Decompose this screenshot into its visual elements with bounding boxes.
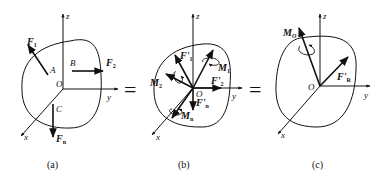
- equals-sign-2: =: [249, 77, 261, 102]
- mo-label: MO: [282, 27, 297, 39]
- y-label: y: [363, 90, 368, 100]
- x-label: x: [155, 132, 160, 142]
- fn-label: Fn: [55, 133, 67, 145]
- m2-label: M2: [149, 77, 162, 89]
- origin-label: O: [56, 79, 63, 89]
- point-c-label: C: [56, 104, 63, 114]
- force-f1: [28, 45, 48, 75]
- m1-label: M1: [217, 62, 230, 74]
- y-label: y: [231, 91, 236, 101]
- f2-prime-label: F'2: [210, 75, 223, 87]
- caption-b: (b): [178, 159, 190, 171]
- point-b-label: B: [70, 58, 76, 68]
- caption-a: (a): [47, 159, 58, 171]
- force-system-diagram: z y x O A B C F1 F2 Fn (a) = z y x O F'1…: [0, 0, 389, 176]
- x-label: x: [280, 130, 285, 140]
- mn-label: Mn: [180, 110, 194, 122]
- z-label: z: [195, 11, 200, 21]
- f2-label: F2: [105, 57, 116, 69]
- fn-prime-label: F'n: [195, 97, 209, 109]
- caption-c: (c): [312, 159, 323, 171]
- panel-c: z y x O MO F'R (c): [276, 11, 370, 171]
- y-label: y: [106, 92, 111, 102]
- point-a-label: A: [49, 65, 56, 75]
- origin-label: O: [308, 82, 315, 92]
- x-label: x: [23, 132, 28, 142]
- moment-m1: [193, 50, 213, 88]
- panel-b: z y x O F'1 F'2 F'n M1 M2 Mn (b): [149, 11, 242, 171]
- panel-a: z y x O A B C F1 F2 Fn (a): [21, 11, 118, 171]
- f1-prime-label: F'1: [179, 50, 192, 62]
- z-label: z: [322, 11, 327, 21]
- z-label: z: [65, 11, 70, 21]
- equals-sign-1: =: [124, 77, 136, 102]
- f1-label: F1: [26, 36, 37, 48]
- fr-prime-label: F'R: [336, 71, 351, 83]
